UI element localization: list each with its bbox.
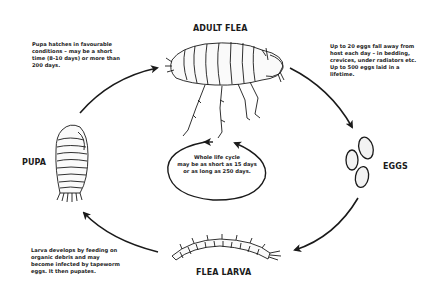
stage-label-eggs: EGGS: [383, 162, 408, 171]
adult-flea-illustration: [165, 42, 284, 138]
arrow-eggs-to-larva: [295, 198, 358, 250]
arrow-pupa-to-adult: [80, 68, 157, 113]
note-pupa-hatches: Pupa hatches in favourable conditions – …: [32, 41, 142, 69]
note-larva-develops: Larva develops by feeding on organic deb…: [31, 247, 131, 275]
note-eggs-fall: Up to 20 eggs fall away from host each d…: [330, 43, 426, 78]
eggs-illustration: [346, 136, 376, 189]
stage-label-pupa: PUPA: [22, 158, 46, 167]
flea-larva-illustration: [172, 234, 281, 260]
pupa-illustration: [56, 125, 88, 202]
stage-label-adult-flea: ADULT FLEA: [193, 24, 248, 33]
note-whole-life-cycle: Whole life cycle may be as short as 15 d…: [171, 154, 263, 176]
stage-label-flea-larva: FLEA LARVA: [196, 268, 251, 277]
